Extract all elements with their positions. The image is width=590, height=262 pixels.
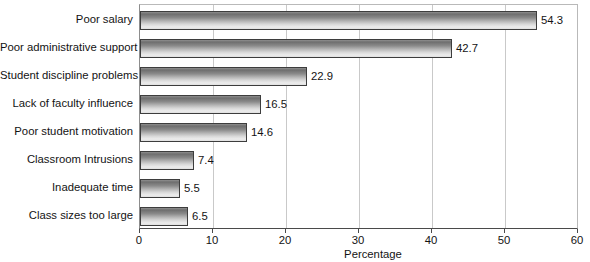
xtick-mark — [577, 229, 578, 233]
category-label: Inadequate time — [0, 181, 133, 193]
category-label: Lack of faculty influence — [0, 97, 133, 109]
xtick-label: 40 — [411, 234, 451, 247]
xtick-label: 30 — [338, 234, 378, 247]
bar-value-label: 6.5 — [192, 210, 208, 222]
bar-value-label: 7.4 — [198, 154, 214, 166]
xtick-mark — [358, 229, 359, 233]
bar-chart: Poor salary Poor administrative support … — [0, 0, 590, 262]
bar-value-label: 54.3 — [541, 14, 563, 26]
bar — [140, 123, 247, 142]
category-axis-labels: Poor salary Poor administrative support … — [0, 4, 133, 229]
bar — [140, 179, 180, 198]
bar-value-label: 14.6 — [251, 126, 273, 138]
xtick-label: 60 — [557, 234, 590, 247]
bar-value-label: 16.5 — [265, 98, 287, 110]
bar — [140, 67, 307, 86]
xtick-mark — [212, 229, 213, 233]
xtick-label: 10 — [192, 234, 232, 247]
bar — [140, 207, 188, 226]
category-label: Poor salary — [0, 13, 133, 25]
bar — [140, 39, 452, 58]
xtick-mark — [285, 229, 286, 233]
xtick-label: 50 — [484, 234, 524, 247]
bar — [140, 95, 261, 114]
bar — [140, 151, 194, 170]
category-label: Classroom Intrusions — [0, 153, 133, 165]
xtick-label: 20 — [265, 234, 305, 247]
xtick-mark — [431, 229, 432, 233]
xtick-mark — [504, 229, 505, 233]
xtick-mark — [139, 229, 140, 233]
gridline-50 — [505, 5, 506, 228]
xtick-label: 0 — [119, 234, 159, 247]
category-label: Poor student motivation — [0, 125, 133, 137]
bar-value-label: 42.7 — [456, 42, 478, 54]
category-label: Student discipline problems — [0, 69, 133, 81]
category-label: Poor administrative support — [0, 41, 133, 53]
x-axis-title-wrap: Percentage — [0, 248, 590, 261]
bar — [140, 11, 537, 30]
bar-value-label: 5.5 — [184, 182, 200, 194]
plot-area: 54.3 42.7 22.9 16.5 14.6 7.4 5.5 6.5 — [139, 4, 578, 229]
bar-value-label: 22.9 — [311, 70, 333, 82]
x-axis-title: Percentage — [344, 248, 402, 260]
category-label: Class sizes too large — [0, 209, 133, 221]
